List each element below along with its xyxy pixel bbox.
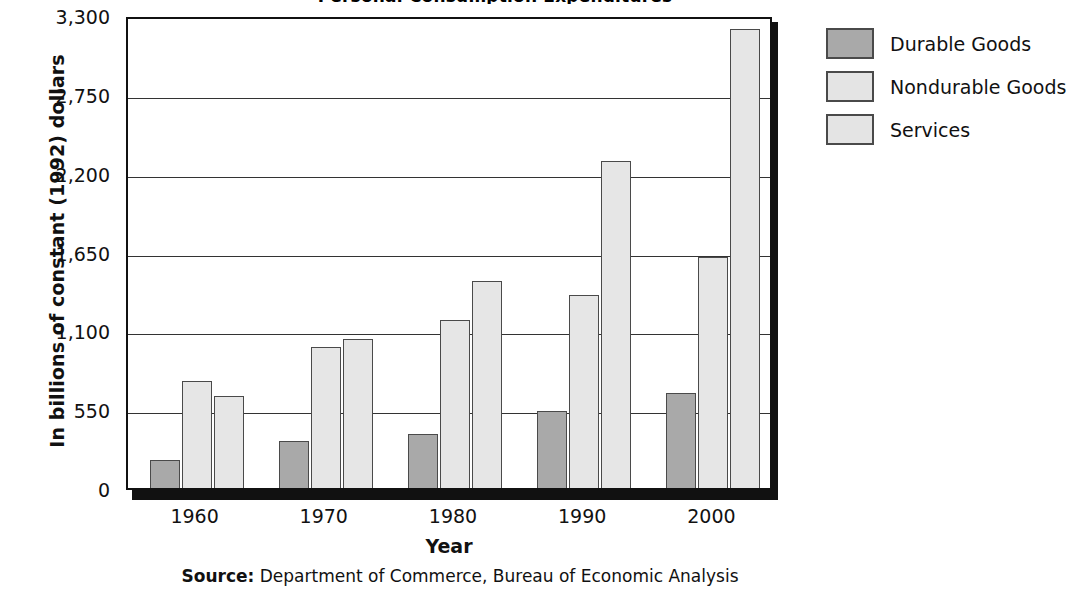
x-axis-title: Year [126,535,772,557]
bar-2000-durable [666,393,696,488]
legend-label-services: Services [890,119,970,141]
chart-title: Personal Consumption Expenditures [195,0,795,4]
bar-1960-durable [150,460,180,488]
bar-1970-durable [279,441,309,488]
bar-2000-services [730,29,760,488]
bar-1990-durable [537,411,567,488]
legend-item-services: Services [826,110,1088,149]
x-tick-label-2000: 2000 [651,505,771,527]
gridline [128,98,770,99]
legend-item-nondurable-goods: Nondurable Goods [826,67,1088,106]
bar-1980-nondurable [440,320,470,488]
legend-swatch-icon-services [826,114,874,145]
source-text: Department of Commerce, Bureau of Econom… [254,566,738,586]
y-tick-label: 2,200 [0,164,118,186]
source-prefix: Source: [181,566,254,586]
y-tick-label: 1,650 [0,243,118,265]
bar-1990-services [601,161,631,488]
legend: Durable Goods Nondurable Goods Services [826,24,1088,153]
y-tick-label: 0 [0,479,118,501]
y-tick-label: 3,300 [0,6,118,28]
bar-1970-nondurable [311,347,341,488]
legend-label-nondurable-goods: Nondurable Goods [890,76,1066,98]
bar-1960-services [214,396,244,488]
y-tick-label: 550 [0,400,118,422]
legend-label-durable-goods: Durable Goods [890,33,1031,55]
gridline [128,256,770,257]
bar-1980-services [472,281,502,488]
x-tick-label-1960: 1960 [135,505,255,527]
bar-1980-durable [408,434,438,488]
y-axis-tick-labels: 05501,1001,6502,2002,7503,300 [0,0,118,599]
x-tick-label-1970: 1970 [264,505,384,527]
plot-area [126,17,772,490]
legend-item-durable-goods: Durable Goods [826,24,1088,63]
source-note: Source: Department of Commerce, Bureau o… [0,566,920,586]
x-tick-label-1980: 1980 [393,505,513,527]
y-tick-label: 2,750 [0,85,118,107]
bar-1970-services [343,339,373,488]
bar-1990-nondurable [569,295,599,489]
x-tick-label-1990: 1990 [522,505,642,527]
legend-swatch-icon-durable-goods [826,28,874,59]
bar-2000-nondurable [698,257,728,488]
legend-swatch-icon-nondurable-goods [826,71,874,102]
gridline [128,177,770,178]
y-tick-label: 1,100 [0,321,118,343]
bar-1960-nondurable [182,381,212,489]
chart-page: Personal Consumption Expenditures In bil… [0,0,1088,599]
